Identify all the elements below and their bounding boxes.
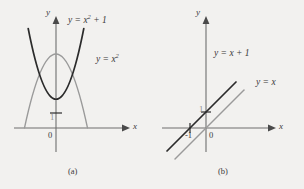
panel-a-axes [14,16,130,152]
line-y-equals-x [175,90,244,159]
panel-a-ytick-label-1: 1 [50,113,54,122]
panel-a-caption: (a) [68,167,77,176]
figure-graph-transformations: y x 0 1 y = x2 + 1 y = x2 (a) [0,0,304,189]
label-eq: = x [100,54,115,64]
panel-b-origin-label: 0 [209,131,213,140]
panel-b-plot [152,0,304,189]
panel-a-curve-label-upper: y = x2 + 1 [68,16,107,26]
panel-b-x-axis-label: x [279,122,283,131]
label-eq: = x [72,15,87,25]
panel-b-y-axis-label: y [196,8,200,17]
panel-a-y-axis-label: y [46,8,50,17]
panel-a: y x 0 1 y = x2 + 1 y = x2 (a) [0,0,152,189]
panel-b-xtick-label-minus-1: -1 [185,131,192,140]
y-axis-arrow-icon [53,16,60,24]
label-exponent: 2 [116,52,119,59]
panel-b-ytick-label-1: 1 [199,105,203,114]
y-axis-arrow-icon [203,16,210,24]
panel-b: y x 0 -1 1 y = x + 1 y = x (b) [152,0,304,189]
panel-b-line-label-lower: y = x [256,78,276,88]
panel-a-plot [0,0,152,189]
panel-b-line-label-upper: y = x + 1 [214,49,250,59]
label-tail: + 1 [91,15,107,25]
line-y-equals-x-plus-1 [167,82,236,151]
panel-b-caption: (b) [218,167,228,176]
x-axis-arrow-icon [122,125,130,132]
panel-a-origin-label: 0 [48,131,52,140]
x-axis-arrow-icon [268,125,276,132]
panel-a-x-axis-label: x [133,122,137,131]
panel-a-curve-label-lower: y = x2 [96,55,119,65]
